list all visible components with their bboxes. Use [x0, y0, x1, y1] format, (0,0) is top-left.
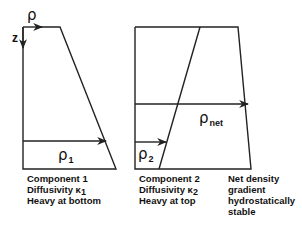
component-2-profile: [159, 27, 200, 169]
net-caption: Net density gradient hydrostatically sta…: [228, 173, 296, 217]
rho1-label: ρ1: [58, 146, 74, 165]
net-profile-box: [135, 27, 251, 169]
component-2-caption: Component 2 Diffusivity κ2 Heavy at top: [139, 173, 200, 206]
rho2-label: ρ2: [138, 145, 154, 164]
panel-component-2-and-net: ρnet ρ2 Component 2 Diffusivity κ2 Heavy…: [135, 27, 296, 217]
svg-text:stable: stable: [228, 206, 255, 217]
svg-text:Net density: Net density: [228, 173, 280, 184]
rho-net-label: ρnet: [199, 109, 223, 128]
svg-text:gradient: gradient: [228, 184, 266, 195]
svg-text:hydrostatically: hydrostatically: [228, 195, 296, 206]
svg-text:Heavy at bottom: Heavy at bottom: [27, 195, 101, 206]
rho-axis-label: ρ: [27, 6, 37, 24]
svg-text:Component 1: Component 1: [27, 173, 88, 184]
density-gradient-diagram: ρ z ρ1 Component 1 Diffusivity κ1 Heavy …: [0, 0, 302, 226]
component-1-profile: [23, 27, 116, 169]
svg-text:Component 2: Component 2: [139, 173, 200, 184]
component-1-caption: Component 1 Diffusivity κ1 Heavy at bott…: [27, 173, 101, 206]
z-axis-label: z: [12, 31, 18, 45]
panel-component-1: ρ z ρ1 Component 1 Diffusivity κ1 Heavy …: [12, 6, 116, 206]
svg-text:Heavy at top: Heavy at top: [139, 195, 196, 206]
